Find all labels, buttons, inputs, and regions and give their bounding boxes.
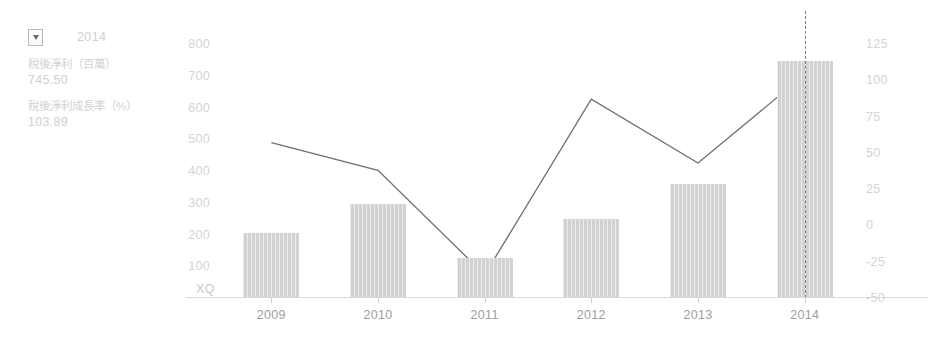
x-axis-label-2010: 2010 — [363, 308, 392, 322]
legend-label-net-profit: 稅後淨利（百萬） — [28, 57, 178, 72]
y-axis-right-tick: 50 — [866, 147, 881, 159]
y-axis-right-tick: 0 — [866, 219, 873, 231]
x-axis-tickmark — [271, 298, 272, 303]
info-panel-header: 2014 — [28, 28, 178, 46]
y-axis-left: 800700600500400300200100 — [162, 44, 210, 298]
bar-2010[interactable] — [350, 204, 406, 298]
caret-glyph — [33, 35, 39, 40]
x-axis-tickmark — [805, 298, 806, 303]
y-axis-left-tick: 100 — [188, 260, 210, 272]
y-axis-right-tick: -25 — [866, 256, 885, 268]
y-axis-left-tick: 200 — [188, 229, 210, 241]
y-axis-left-tick: 500 — [188, 133, 210, 145]
legend-value-net-profit: 745.50 — [28, 72, 178, 88]
xq-watermark: XQ — [196, 282, 215, 296]
x-axis-label-2014: 2014 — [790, 308, 819, 322]
y-axis-left-tick: 300 — [188, 197, 210, 209]
bar-2011[interactable] — [457, 258, 513, 298]
y-axis-right-tick: 125 — [866, 38, 888, 50]
legend-item-net-profit: 稅後淨利（百萬） 745.50 — [28, 57, 178, 88]
legend-label-growth-rate: 稅後淨利成長率（%） — [28, 99, 178, 114]
y-axis-left-tick: 700 — [188, 70, 210, 82]
legend-value-growth-rate: 103.89 — [28, 114, 178, 130]
bar-2012[interactable] — [563, 219, 619, 298]
x-axis-label-2011: 2011 — [471, 308, 499, 322]
x-axis-label-2012: 2012 — [577, 308, 606, 322]
y-axis-right-tick: 100 — [866, 74, 888, 86]
selected-year-label: 2014 — [77, 30, 106, 44]
chevron-down-icon[interactable] — [28, 29, 43, 46]
x-axis-label-2013: 2013 — [683, 308, 712, 322]
y-axis-left-tick: 400 — [188, 165, 210, 177]
y-axis-right-tick: -50 — [866, 292, 885, 304]
y-axis-right-tick: 75 — [866, 111, 881, 123]
x-axis-baseline — [186, 297, 928, 298]
x-axis-label-2009: 2009 — [257, 308, 286, 322]
line-series-layer — [218, 44, 858, 298]
y-axis-left-tick: 600 — [188, 102, 210, 114]
plot-area: 200920102011201220132014 — [218, 44, 858, 298]
y-axis-right: 1251007550250-25-50 — [866, 44, 926, 298]
y-axis-left-tick: 800 — [188, 38, 210, 50]
bar-2009[interactable] — [243, 233, 299, 298]
bar-2013[interactable] — [670, 184, 726, 298]
chart-info-panel: 2014 稅後淨利（百萬） 745.50 稅後淨利成長率（%） 103.89 — [28, 28, 178, 130]
cursor-dashed-line[interactable] — [805, 11, 806, 298]
x-axis-tickmark — [698, 298, 699, 303]
chart-container: 2014 稅後淨利（百萬） 745.50 稅後淨利成長率（%） 103.89 8… — [0, 0, 934, 341]
x-axis-tickmark — [591, 298, 592, 303]
y-axis-right-tick: 25 — [866, 183, 881, 195]
x-axis-tickmark — [378, 298, 379, 303]
x-axis-tickmark — [485, 298, 486, 303]
legend-item-growth-rate: 稅後淨利成長率（%） 103.89 — [28, 99, 178, 130]
